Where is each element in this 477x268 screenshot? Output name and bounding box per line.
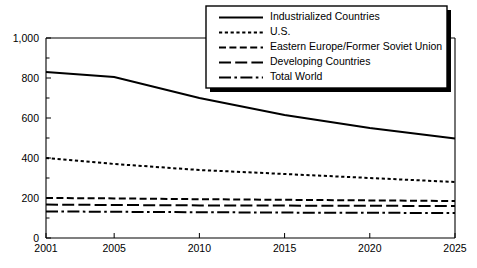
y-tick-label: 200 xyxy=(21,192,39,204)
y-axis-tick-labels: 02004006008001,000 xyxy=(13,32,39,244)
x-tick-label: 2001 xyxy=(34,242,58,254)
series-line-4 xyxy=(46,211,455,213)
chart-canvas: 02004006008001,000 200120052010201520202… xyxy=(0,0,477,268)
line-chart: 02004006008001,000 200120052010201520202… xyxy=(0,0,477,268)
legend-label-0: Industrialized Countries xyxy=(270,10,380,22)
legend-label-1: U.S. xyxy=(270,25,290,37)
y-tick-label: 600 xyxy=(21,112,39,124)
series-line-2 xyxy=(46,198,455,201)
x-tick-label: 2005 xyxy=(102,242,126,254)
x-axis-tick-labels: 200120052010201520202025 xyxy=(34,242,467,254)
x-tick-label: 2015 xyxy=(273,242,297,254)
data-series-group xyxy=(46,72,455,213)
legend-label-3: Developing Countries xyxy=(270,55,370,67)
legend-label-4: Total World xyxy=(270,70,322,82)
legend-label-2: Eastern Europe/Former Soviet Union xyxy=(270,40,442,52)
x-tick-label: 2020 xyxy=(358,242,382,254)
series-line-3 xyxy=(46,205,455,206)
series-line-1 xyxy=(46,158,455,182)
y-tick-label: 1,000 xyxy=(13,32,39,44)
x-tick-label: 2025 xyxy=(443,242,467,254)
chart-legend: Industrialized CountriesU.S.Eastern Euro… xyxy=(206,6,451,92)
y-tick-label: 400 xyxy=(21,152,39,164)
x-axis-ticks xyxy=(46,233,455,238)
x-tick-label: 2010 xyxy=(188,242,212,254)
y-tick-label: 800 xyxy=(21,72,39,84)
